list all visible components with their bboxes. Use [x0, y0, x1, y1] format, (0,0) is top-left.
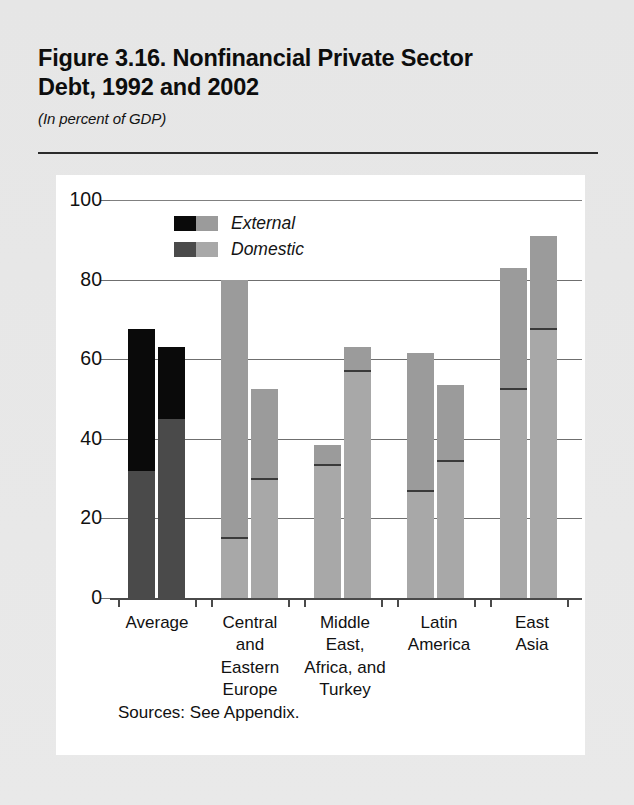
segment-divider: [437, 460, 464, 462]
category-label-line: Turkey: [285, 679, 405, 701]
x-tick: [567, 598, 569, 607]
x-tick: [118, 598, 120, 607]
category-label-line: Africa, and: [285, 657, 405, 679]
bar-segment-domestic: [500, 389, 527, 598]
bar-middle-east-africa-and-turkey-2002: [344, 347, 371, 598]
bar-segment-external: [407, 353, 434, 490]
bar-segment-domestic: [314, 465, 341, 598]
x-tick: [381, 598, 383, 607]
y-axis-label-100: 100: [56, 188, 102, 211]
bar-segment-external: [314, 445, 341, 465]
x-tick: [288, 598, 290, 607]
segment-divider: [407, 490, 434, 492]
segment-divider: [314, 464, 341, 466]
y-axis-label-60: 60: [56, 347, 102, 370]
bar-segment-external: [128, 329, 155, 470]
y-tick-0: [101, 598, 110, 599]
bar-segment-external: [500, 268, 527, 389]
x-axis-line: [110, 598, 582, 600]
segment-divider: [500, 388, 527, 390]
category-label-line: East: [472, 612, 592, 634]
x-tick: [490, 598, 492, 607]
bar-segment-domestic: [221, 538, 248, 598]
bar-latin-america-2002: [437, 385, 464, 598]
bar-segment-external: [221, 280, 248, 539]
bar-segment-external: [344, 347, 371, 371]
x-tick: [304, 598, 306, 607]
category-label-east-asia: EastAsia: [472, 612, 592, 657]
bar-middle-east-africa-and-turkey-1992: [314, 445, 341, 598]
bar-segment-domestic: [437, 461, 464, 598]
segment-divider: [221, 537, 248, 539]
y-tick-60: [101, 359, 110, 360]
bar-segment-domestic: [128, 471, 155, 598]
bar-average-2002: [158, 347, 185, 598]
bar-latin-america-1992: [407, 353, 434, 598]
bar-east-asia-1992: [500, 268, 527, 598]
x-tick: [211, 598, 213, 607]
y-axis-label-0: 0: [56, 586, 102, 609]
bar-segment-external: [251, 389, 278, 479]
bar-segment-domestic: [344, 371, 371, 598]
figure-page: Figure 3.16. Nonfinancial Private Sector…: [0, 0, 634, 805]
bar-segment-domestic: [251, 479, 278, 598]
bar-central-and-eastern-europe-2002: [251, 389, 278, 598]
x-tick: [474, 598, 476, 607]
segment-divider: [344, 370, 371, 372]
bar-east-asia-2002: [530, 236, 557, 598]
figure-title-line-2: Debt, 1992 and 2002: [38, 73, 598, 102]
bar-segment-domestic: [530, 329, 557, 598]
bar-segment-external: [158, 347, 185, 419]
chart-panel: External Domestic AverageCentralandEaste…: [56, 175, 585, 755]
y-axis-label-80: 80: [56, 268, 102, 291]
y-tick-20: [101, 518, 110, 519]
y-tick-40: [101, 439, 110, 440]
title-divider-rule: [38, 152, 598, 154]
source-note: Sources: See Appendix.: [118, 703, 299, 723]
bar-central-and-eastern-europe-1992: [221, 280, 248, 598]
bar-segment-external: [530, 236, 557, 330]
plot-area: AverageCentralandEasternEuropeMiddleEast…: [110, 200, 582, 598]
bar-average-1992: [128, 329, 155, 598]
segment-divider: [530, 328, 557, 330]
figure-subtitle: (In percent of GDP): [38, 110, 598, 127]
bar-segment-domestic: [158, 419, 185, 598]
segment-divider: [251, 478, 278, 480]
y-tick-100: [101, 200, 110, 201]
figure-title: Figure 3.16. Nonfinancial Private Sector…: [38, 44, 598, 102]
x-tick: [397, 598, 399, 607]
bar-segment-domestic: [407, 491, 434, 598]
x-tick: [195, 598, 197, 607]
category-label-line: Asia: [472, 634, 592, 656]
figure-header: Figure 3.16. Nonfinancial Private Sector…: [38, 44, 598, 127]
figure-title-line-1: Figure 3.16. Nonfinancial Private Sector: [38, 44, 598, 73]
y-tick-80: [101, 280, 110, 281]
gridline-100: [110, 200, 582, 201]
y-axis-label-20: 20: [56, 506, 102, 529]
bar-segment-external: [437, 385, 464, 461]
y-axis-label-40: 40: [56, 427, 102, 450]
